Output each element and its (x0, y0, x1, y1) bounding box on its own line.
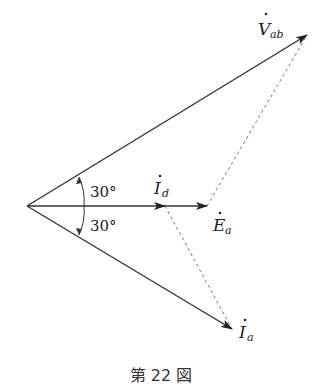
phasor-diagram: 30° 30° V ab I d E a I a (0, 0, 322, 389)
dot-accent-icon (265, 13, 268, 16)
dot-accent-icon (159, 175, 162, 178)
label-ia-main: I (238, 322, 246, 342)
dashed-line-ea-vab (207, 35, 307, 206)
label-ea-main: E (212, 215, 226, 235)
label-ea: E a (212, 212, 232, 237)
vector-vab (27, 35, 307, 206)
angle-arrowhead-upper (76, 177, 82, 184)
figure-caption: 第 22 図 (0, 362, 322, 386)
angle-arrowhead-lower (76, 228, 82, 235)
label-ia: I a (238, 319, 254, 344)
dot-accent-icon (219, 212, 222, 215)
label-vab: V ab (258, 13, 284, 41)
label-ia-sub: a (247, 331, 254, 344)
label-id: I d (153, 175, 169, 200)
dot-accent-icon (244, 319, 247, 322)
angle-label-upper: 30° (90, 183, 117, 201)
angle-label-lower: 30° (90, 217, 117, 235)
vector-ia (27, 206, 232, 329)
label-id-sub: d (162, 187, 169, 200)
label-ea-sub: a (225, 224, 232, 237)
label-id-main: I (153, 178, 161, 198)
label-vab-sub: ab (270, 28, 284, 41)
